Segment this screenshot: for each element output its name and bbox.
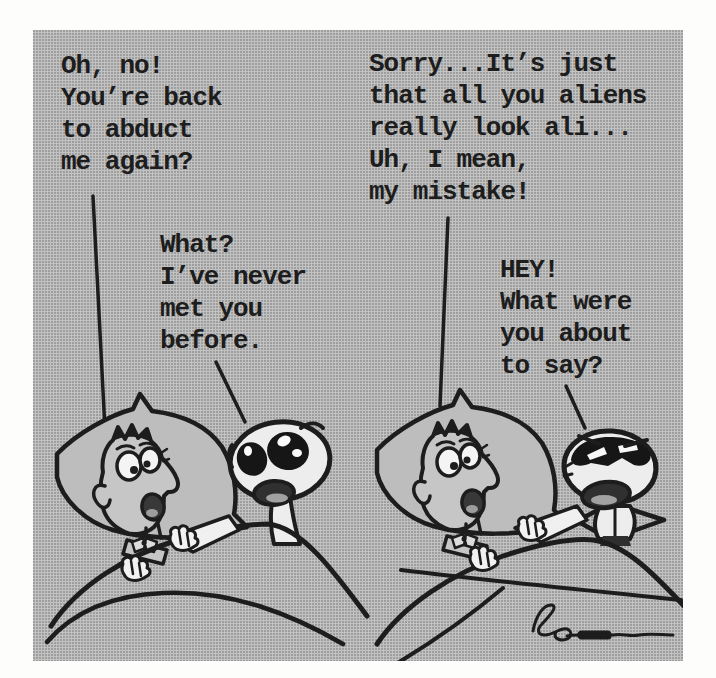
- alien2-tongue: [591, 495, 617, 505]
- speech-human-scene2: Sorry...It’s just that all you aliens re…: [369, 48, 646, 208]
- artist-signature: [533, 605, 673, 640]
- speech-alien-scene1: What? I’ve never met you before.: [160, 229, 306, 357]
- mattress-line-scene1: [47, 593, 343, 644]
- pointer-line-2: [440, 218, 448, 406]
- comic-page: Oh, no! You’re back to abduct me again? …: [0, 0, 716, 678]
- alien1-eye-highlight-3: [244, 446, 252, 456]
- alien1-eye-highlight-2: [292, 449, 302, 457]
- blanket-edge-scene2: [377, 540, 683, 644]
- alien-angry: [562, 428, 664, 546]
- speech-alien-scene2: HEY! What were you about to say?: [500, 254, 631, 382]
- blanket-fold-scene2: [379, 588, 503, 661]
- comic-panel: Oh, no! You’re back to abduct me again? …: [33, 30, 683, 661]
- pointer-line-4: [566, 386, 585, 428]
- pointer-line-1: [93, 196, 105, 430]
- alien1-mouth: [253, 480, 295, 507]
- pointer-line-3: [216, 362, 245, 422]
- speech-human-scene1: Oh, no! You’re back to abduct me again?: [61, 50, 222, 178]
- alien1-tongue: [266, 494, 288, 503]
